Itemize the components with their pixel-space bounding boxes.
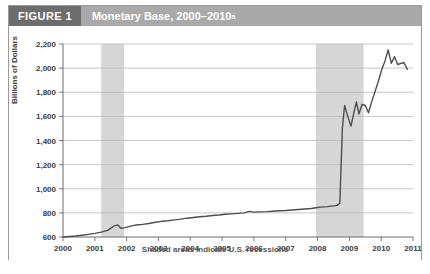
figure-header: FIGURE 1 Monetary Base, 2000–2010a: [9, 6, 421, 26]
figure-number-label: FIGURE 1: [18, 10, 72, 22]
figure-title-footnote-marker: a: [231, 13, 235, 20]
y-axis-tick-label: 1,000: [36, 185, 57, 194]
figure-number-badge: FIGURE 1: [9, 6, 81, 26]
chart-plot-area: Billions of Dollars 6008001,0001,2001,40…: [9, 26, 421, 260]
figure-card: FIGURE 1 Monetary Base, 2000–2010a Billi…: [8, 5, 422, 260]
y-axis-tick-label: 1,200: [36, 161, 57, 170]
y-axis-tick-label: 2,200: [36, 40, 57, 49]
figure-title: Monetary Base, 2000–2010a: [81, 6, 235, 26]
y-axis-tick-label: 800: [43, 209, 57, 218]
chart-annotation: Shaded areas indicate U.S. recessions: [9, 245, 421, 254]
y-axis-label: Billions of Dollars: [10, 36, 19, 104]
y-axis-tick-label: 1,800: [36, 88, 57, 97]
monetary-base-line-chart: 6008001,0001,2001,4001,6001,8002,0002,20…: [9, 26, 421, 260]
y-axis-tick-label: 600: [43, 233, 57, 242]
y-axis-tick-label: 2,000: [36, 64, 57, 73]
y-axis-tick-label: 1,400: [36, 137, 57, 146]
figure-title-text: Monetary Base, 2000–2010: [92, 10, 231, 22]
y-axis-tick-label: 1,600: [36, 112, 57, 121]
